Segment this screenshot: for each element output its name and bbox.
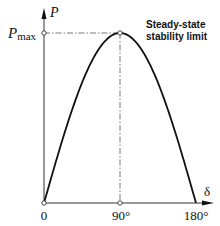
x-axis-arrow-icon <box>202 201 214 206</box>
pmax-label: Pmax <box>7 25 37 42</box>
pmax-axis-marker <box>42 31 46 35</box>
x-axis-label: δ <box>204 184 210 199</box>
delta-90-marker <box>118 201 122 205</box>
origin-marker <box>42 201 46 205</box>
annotation-line-1: Steady-state <box>146 19 206 30</box>
power-angle-chart: P Pmax δ 0 90° 180° Steady-state stabili… <box>0 0 220 226</box>
y-axis-label: P <box>49 5 59 20</box>
peak-marker <box>118 31 122 35</box>
tick-label-90: 90° <box>112 208 130 223</box>
annotation-line-2: stability limit <box>146 31 208 42</box>
tick-label-0: 0 <box>41 208 48 223</box>
y-axis-arrow-icon <box>42 8 47 19</box>
tick-label-180: 180° <box>184 208 209 223</box>
